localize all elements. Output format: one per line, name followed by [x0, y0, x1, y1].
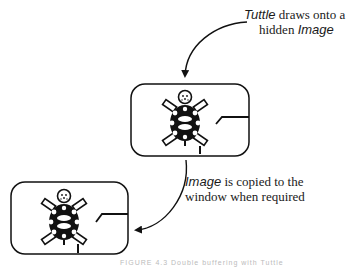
middle-label-line2: window when required	[185, 189, 305, 204]
arrow-copy	[136, 160, 186, 230]
tuttle-word: Tuttle	[244, 7, 276, 22]
arrow-draw	[185, 22, 247, 76]
hidden-image-box	[131, 84, 249, 156]
middle-label-line1: is copied to the	[221, 174, 303, 189]
top-label: Tuttle draws onto a hidden Image	[244, 7, 345, 37]
image-word: Image	[298, 22, 334, 37]
diagram-canvas	[0, 0, 358, 267]
image-word: Image	[185, 174, 221, 189]
top-label-line2: hidden	[244, 22, 298, 37]
window-box	[11, 182, 128, 254]
top-label-line1: draws onto a	[276, 7, 346, 22]
middle-label: Image is copied to the window when requi…	[185, 174, 305, 204]
figure-caption: FIGURE 4.3 Double buffering with Tuttle	[120, 259, 284, 266]
